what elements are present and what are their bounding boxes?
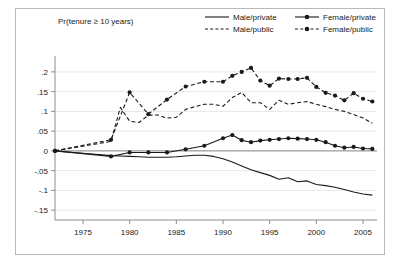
data-point [314,85,318,89]
x-axis [55,220,377,224]
y-tick-label: .15 [37,88,49,97]
data-point [202,144,206,148]
data-point [165,150,169,154]
data-point [258,139,262,143]
data-point [342,98,346,102]
data-point [277,137,281,141]
legend-item-female-public[interactable]: Female/public [295,25,373,34]
data-point [361,97,365,101]
chart-title: Pr(tenure ≥ 10 years) [58,17,134,26]
series-female-public [53,66,375,153]
data-point [146,112,150,116]
data-series-layer [53,66,375,195]
data-point [146,150,150,154]
legend-marker-icon [305,15,310,20]
data-point [184,147,188,151]
x-tick-label: 1995 [261,228,279,237]
data-point [230,74,234,78]
x-tick-label: 1990 [214,228,232,237]
series-line [55,135,372,156]
chart-svg: -.15-.1-.050.05.1.15.2 19751980198519901… [0,0,400,263]
data-point [109,154,113,158]
y-tick-label: .1 [41,107,48,116]
data-point [240,138,244,142]
data-point [128,150,132,154]
data-point [314,138,318,142]
y-tick-label: -.05 [34,167,48,176]
data-point [296,137,300,141]
data-point [370,99,374,103]
data-point [230,133,234,137]
data-point [268,138,272,142]
data-point [333,93,337,97]
data-point [286,77,290,81]
data-point [342,146,346,150]
legend-item-male-private[interactable]: Male/private [205,13,277,22]
data-point [128,90,132,94]
legend-label: Female/private [323,13,376,22]
data-point [324,140,328,144]
y-tick-label: .05 [37,127,49,136]
y-tick-labels: -.15-.1-.050.05.1.15.2 [34,68,48,215]
chart-figure: -.15-.1-.050.05.1.15.2 19751980198519901… [0,0,400,263]
legend-label: Female/public [323,25,373,34]
x-tick-label: 1980 [121,228,139,237]
x-tick-label: 1985 [167,228,185,237]
data-point [352,145,356,149]
series-male-private [55,151,372,195]
y-tick-label: -.1 [39,186,49,195]
data-point [361,146,365,150]
data-point [277,76,281,80]
data-point [249,140,253,144]
data-point [324,91,328,95]
data-point [221,80,225,84]
data-point [221,136,225,140]
legend-item-female-private[interactable]: Female/private [295,13,376,22]
x-tick-label: 2005 [354,228,372,237]
data-point [305,137,309,141]
legend-label: Male/public [233,25,273,34]
chart-legend: Male/privateMale/publicFemale/privateFem… [205,13,376,34]
data-point [202,80,206,84]
x-tick-label: 1975 [74,228,92,237]
x-tick-labels: 1975198019851990199520002005 [74,228,372,237]
y-axis [51,56,55,220]
legend-item-male-public[interactable]: Male/public [205,25,273,34]
y-tick-label: 0 [44,147,49,156]
data-point [286,136,290,140]
legend-marker-icon [305,27,310,32]
y-tick-label: -.15 [34,206,48,215]
data-point [165,97,169,101]
data-point [258,78,262,82]
data-point [352,91,356,95]
x-tick-label: 2000 [307,228,325,237]
series-line [55,68,372,151]
y-tick-label: .2 [41,68,48,77]
data-point [333,144,337,148]
series-line [55,151,372,195]
data-point [249,66,253,70]
data-point [268,84,272,88]
data-point [109,138,113,142]
data-point [305,76,309,80]
data-point [296,77,300,81]
legend-label: Male/private [233,13,277,22]
data-point [53,149,57,153]
data-point [240,70,244,74]
data-point [184,84,188,88]
data-point [370,147,374,151]
